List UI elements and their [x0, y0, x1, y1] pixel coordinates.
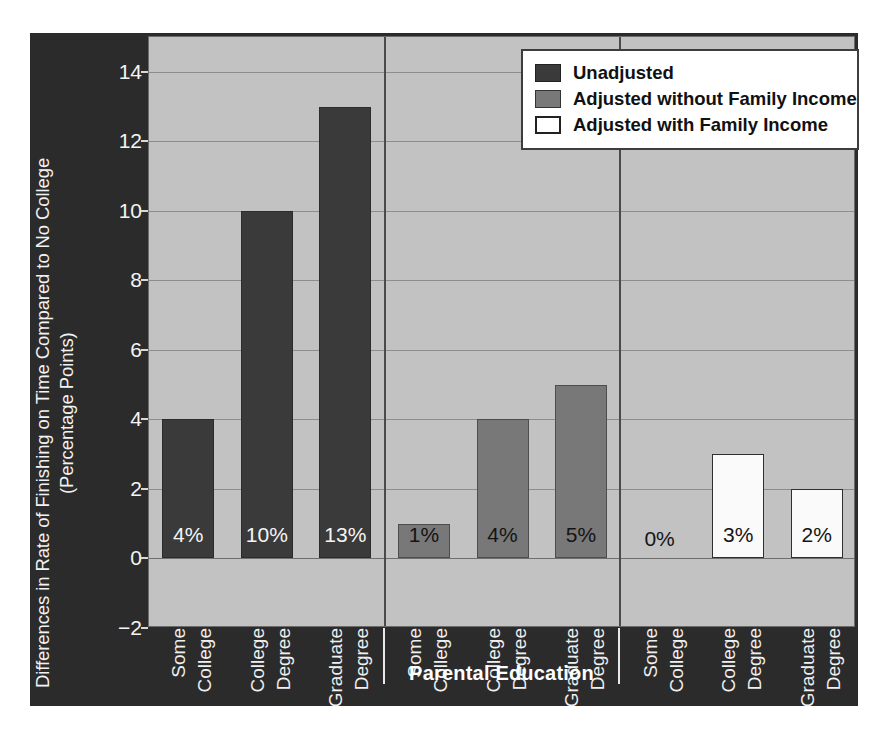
bar	[319, 107, 371, 559]
gridline	[149, 558, 854, 559]
legend-swatch	[535, 116, 561, 134]
bar-value-label: 1%	[409, 524, 439, 545]
y-tick-mark	[141, 627, 148, 629]
y-tick-mark	[141, 210, 148, 212]
y-tick-mark	[141, 140, 148, 142]
y-tick-label: −2	[118, 617, 142, 638]
y-axis-title: Differences in Rate of Finishing on Time…	[30, 33, 106, 706]
legend-item: Unadjusted	[535, 60, 847, 86]
y-tick-label: 10	[119, 199, 142, 220]
legend-swatch	[535, 64, 561, 82]
x-axis-title: Parental Education	[148, 662, 855, 685]
bar-value-label: 2%	[802, 524, 832, 545]
legend-item: Adjusted without Family Income	[535, 86, 847, 112]
y-tick-label: 14	[119, 60, 142, 81]
legend-item: Adjusted with Family Income	[535, 112, 847, 138]
chart-figure: Differences in Rate of Finishing on Time…	[0, 0, 888, 733]
y-tick-mark	[141, 279, 148, 281]
legend-label: Adjusted with Family Income	[573, 114, 828, 136]
y-tick-mark	[141, 488, 148, 490]
bar-value-label: 4%	[487, 524, 517, 545]
group-separator	[384, 37, 386, 626]
y-tick-label: 12	[119, 130, 142, 151]
bar	[241, 211, 293, 559]
y-axis-title-line-2: (Percentage Points)	[56, 332, 78, 494]
y-tick-mark	[141, 71, 148, 73]
bar-value-label: 0%	[644, 528, 674, 549]
bar-value-label: 5%	[566, 524, 596, 545]
y-axis-title-line-1: Differences in Rate of Finishing on Time…	[32, 158, 54, 688]
bar-value-label: 13%	[324, 524, 366, 545]
y-tick-mark	[141, 557, 148, 559]
bar-value-label: 10%	[246, 524, 288, 545]
y-axis-tick-labels: −202468101214	[96, 33, 142, 706]
bar-value-label: 4%	[173, 524, 203, 545]
bar-value-label: 3%	[723, 524, 753, 545]
legend-label: Unadjusted	[573, 62, 674, 84]
legend-swatch	[535, 90, 561, 108]
chart-legend: UnadjustedAdjusted without Family Income…	[521, 49, 859, 150]
y-tick-mark	[141, 418, 148, 420]
y-tick-mark	[141, 349, 148, 351]
legend-label: Adjusted without Family Income	[573, 88, 857, 110]
